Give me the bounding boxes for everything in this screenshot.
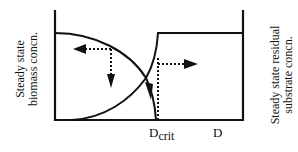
left-axis-label-line2: biomass concn.	[27, 14, 40, 124]
right-axis-label: Steady state residual substrate concn.	[269, 10, 295, 140]
x-tick-dcrit-main: D	[149, 125, 158, 140]
arrow-right-icon	[184, 59, 198, 69]
right-axis-label-line2: substrate concn.	[282, 10, 295, 140]
x-tick-dcrit-sub: crit	[158, 129, 174, 143]
left-axis-label: Steady state biomass concn.	[14, 14, 40, 124]
x-tick-d: D	[213, 125, 222, 141]
biomass-curve	[55, 33, 156, 120]
arrow-left-icon	[73, 44, 86, 54]
arrow-down-icon	[107, 74, 115, 88]
x-tick-dcrit: Dcrit	[149, 125, 174, 144]
